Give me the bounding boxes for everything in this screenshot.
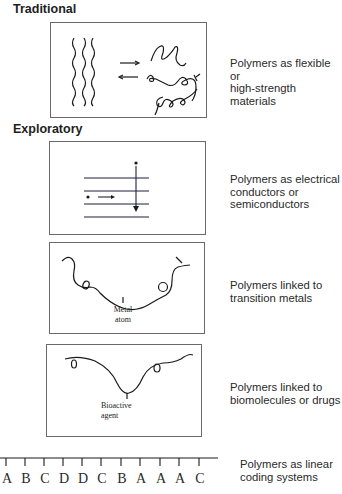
panel-electrical-conductors [49, 141, 206, 235]
code-letter: A [173, 471, 187, 487]
chain-conformation-illustration [51, 23, 208, 119]
caption-linear-coding: Polymers as linear coding systems [240, 458, 333, 483]
coding-backbone-line [0, 452, 230, 472]
code-letter: C [95, 471, 109, 487]
code-letter: C [38, 471, 52, 487]
code-letter: C [193, 471, 207, 487]
caption-transition-metals: Polymers linked to transition metals [230, 279, 322, 304]
caption-biomolecules: Polymers linked to biomolecules or drugs [230, 381, 341, 406]
caption-electrical-conductors: Polymers as electrical conductors or sem… [230, 173, 340, 211]
energy-band-illustration [50, 142, 207, 236]
panel-transition-metals: Metal atom [49, 242, 205, 334]
heading-traditional: Traditional [13, 2, 76, 16]
heading-exploratory: Exploratory [13, 122, 82, 136]
code-letter: A [0, 471, 14, 487]
bioactive-chain-illustration [47, 345, 203, 438]
code-letter: A [154, 471, 168, 487]
code-letter: B [19, 471, 33, 487]
bioactive-agent-label: Bioactive agent [101, 401, 151, 421]
caption-flexible-materials: Polymers as flexible or high-strength ma… [230, 57, 342, 107]
metal-atom-label: Metal atom [100, 305, 146, 325]
code-letter: D [76, 471, 90, 487]
panel-biomolecules: Bioactive agent [46, 344, 202, 437]
code-letter: D [57, 471, 71, 487]
panel-flexible-materials [50, 22, 207, 118]
code-letter: B [115, 471, 129, 487]
code-letter: A [134, 471, 148, 487]
